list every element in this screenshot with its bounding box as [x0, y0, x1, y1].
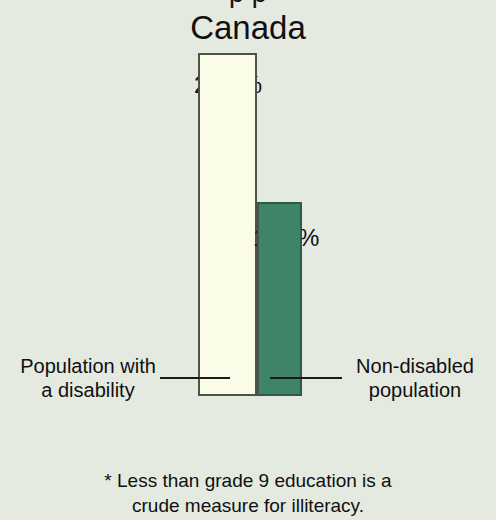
- callout-label-right: Non-disabled population: [340, 354, 490, 402]
- footnote: * Less than grade 9 education is a crude…: [0, 468, 496, 518]
- callout-label-left: Population with a disability: [16, 354, 160, 402]
- leader-line-right: [270, 377, 342, 379]
- callout-right-line-2: population: [369, 379, 461, 401]
- bar-non-disabled-population[interactable]: [257, 202, 302, 396]
- leader-line-left: [160, 377, 230, 379]
- bar-population-with-a-disability[interactable]: [198, 53, 257, 396]
- callout-left-line-1: Population with: [20, 355, 156, 377]
- chart-root: p p Canada 23.8% 11.3% Population with a…: [0, 0, 496, 520]
- footnote-line-2: crude measure for illiteracy.: [0, 493, 496, 518]
- footnote-line-1: * Less than grade 9 education is a: [0, 468, 496, 493]
- callout-right-line-1: Non-disabled: [356, 355, 474, 377]
- plot-area: 23.8% 11.3% Population with a disability…: [0, 0, 496, 470]
- callout-left-line-2: a disability: [41, 379, 134, 401]
